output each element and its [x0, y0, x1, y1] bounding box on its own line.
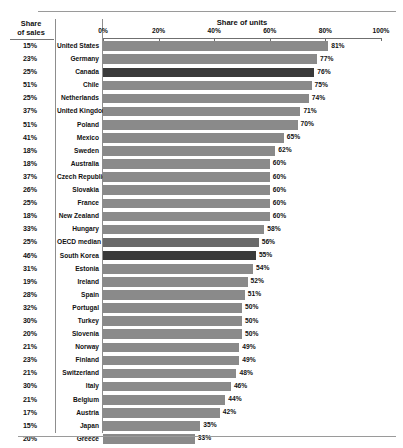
bar — [103, 329, 242, 339]
top-rule — [38, 11, 396, 12]
share-of-sales-value: 30% — [8, 382, 52, 390]
bar — [103, 290, 245, 300]
share-of-sales-value: 21% — [8, 343, 52, 351]
bar — [103, 185, 270, 195]
bar-value-label: 77% — [320, 55, 333, 62]
bar-value-label: 44% — [228, 395, 241, 402]
country-label: Belgium — [57, 396, 99, 403]
bar-value-label: 56% — [262, 238, 275, 245]
country-label: Austria — [57, 409, 99, 416]
share-of-sales-value: 28% — [8, 291, 52, 299]
country-label: Portugal — [57, 304, 99, 311]
share-of-sales-value: 26% — [8, 186, 52, 194]
country-label: South Korea — [57, 252, 99, 259]
bar — [103, 199, 270, 209]
bar — [103, 41, 328, 51]
bar-value-label: 50% — [245, 330, 258, 337]
share-of-sales-value: 21% — [8, 369, 52, 377]
bar — [103, 54, 317, 64]
chart-row: 25%France60% — [0, 197, 403, 210]
chart-row: 21%Belgium44% — [0, 394, 403, 407]
country-label: Sweden — [57, 147, 99, 154]
x-axis-line — [103, 38, 381, 39]
bar — [103, 395, 225, 405]
bar-value-label: 74% — [312, 94, 325, 101]
share-of-sales-value: 32% — [8, 304, 52, 312]
share-of-sales-value: 31% — [8, 265, 52, 273]
country-label: Estonia — [57, 265, 99, 272]
bar — [103, 81, 312, 91]
bar — [103, 264, 253, 274]
bar-container — [103, 356, 239, 366]
chart-title: Share of units — [103, 18, 381, 27]
bar — [103, 277, 248, 287]
share-of-sales-value: 37% — [8, 173, 52, 181]
bar-container — [103, 303, 242, 313]
bar-container — [103, 421, 200, 431]
chart-row: 23%Germany77% — [0, 53, 403, 66]
bar-value-label: 50% — [245, 317, 258, 324]
country-label: Japan — [57, 422, 99, 429]
country-label: Mexico — [57, 134, 99, 141]
bar-container — [103, 225, 264, 235]
country-label: France — [57, 199, 99, 206]
share-of-sales-value: 18% — [8, 147, 52, 155]
country-label: Hungary — [57, 225, 99, 232]
bar-container — [103, 290, 245, 300]
share-of-sales-value: 15% — [8, 42, 52, 50]
chart-row: 17%Austria42% — [0, 407, 403, 420]
bar-value-label: 46% — [234, 382, 247, 389]
bar-container — [103, 408, 220, 418]
country-label: Czech Republic — [57, 173, 99, 180]
bar — [103, 120, 298, 130]
bar-value-label: 70% — [301, 120, 314, 127]
bar — [103, 369, 236, 379]
bar-container — [103, 277, 248, 287]
share-of-sales-value: 25% — [8, 68, 52, 76]
bar-container — [103, 199, 270, 209]
bar-value-label: 48% — [239, 369, 252, 376]
bar-value-label: 35% — [203, 421, 216, 428]
bar-value-label: 65% — [287, 133, 300, 140]
bar-container — [103, 54, 317, 64]
share-of-sales-value: 25% — [8, 94, 52, 102]
share-of-sales-value: 33% — [8, 225, 52, 233]
bar — [103, 303, 242, 313]
x-axis-tick-label: 0% — [98, 27, 108, 34]
chart-row: 51%Chile75% — [0, 79, 403, 92]
chart-row: 37%United Kingdom71% — [0, 105, 403, 118]
bar-container — [103, 159, 270, 169]
chart-row: 21%Switzerland48% — [0, 367, 403, 380]
chart-row: 30%Turkey50% — [0, 315, 403, 328]
share-of-sales-value: 19% — [8, 278, 52, 286]
share-of-sales-value: 23% — [8, 356, 52, 364]
bar-container — [103, 395, 225, 405]
bar-container — [103, 316, 242, 326]
chart-row: 33%Hungary58% — [0, 223, 403, 236]
bar-container — [103, 264, 253, 274]
chart-page: Share of sales Share of units 0%20%40%60… — [0, 0, 403, 448]
bar-container — [103, 382, 231, 392]
bar-container — [103, 107, 300, 117]
chart-row: 25%Canada76% — [0, 66, 403, 79]
bar-value-label: 42% — [223, 408, 236, 415]
x-axis-tick-label: 100% — [373, 27, 390, 34]
bar — [103, 343, 239, 353]
bar-container — [103, 68, 314, 78]
chart-row: 31%Estonia54% — [0, 263, 403, 276]
country-label: Slovenia — [57, 330, 99, 337]
bar-container — [103, 120, 298, 130]
bar — [103, 94, 309, 104]
share-of-sales-value: 20% — [8, 330, 52, 338]
bar-value-label: 62% — [278, 146, 291, 153]
share-of-sales-value: 46% — [8, 252, 52, 260]
chart-row: 25%Netherlands74% — [0, 92, 403, 105]
bar-container — [103, 329, 242, 339]
bar-value-label: 81% — [331, 42, 344, 49]
share-of-sales-value: 18% — [8, 160, 52, 168]
country-label: Chile — [57, 81, 99, 88]
country-label: Turkey — [57, 317, 99, 324]
bar-container — [103, 251, 256, 261]
country-label: Switzerland — [57, 369, 99, 376]
bar — [103, 421, 200, 431]
